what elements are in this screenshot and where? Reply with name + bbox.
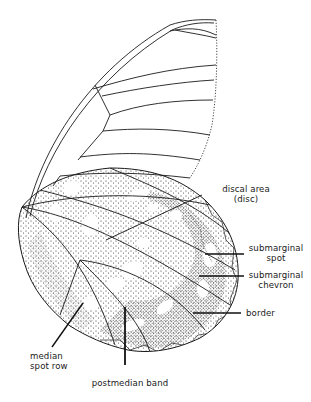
label-postmedian-band-line1: postmedian band (85, 378, 175, 388)
label-median-spot-row-line2: spot row (30, 361, 80, 371)
label-submarginal-chevron-line1: submarginal (242, 270, 310, 280)
label-discal-area: discal area (disc) (203, 184, 289, 204)
label-border: border (246, 308, 286, 318)
label-border-line1: border (246, 308, 286, 318)
label-postmedian-band: postmedian band (85, 378, 175, 388)
label-discal-area-line1: discal area (203, 184, 289, 194)
label-median-spot-row-line1: median (30, 351, 80, 361)
label-submarginal-spot-line1: submarginal (242, 243, 310, 253)
label-submarginal-chevron: submarginal chevron (242, 270, 310, 290)
label-submarginal-spot-line2: spot (242, 253, 310, 263)
label-submarginal-chevron-line2: chevron (242, 280, 310, 290)
label-discal-area-line2: (disc) (203, 194, 289, 204)
label-submarginal-spot: submarginal spot (242, 243, 310, 263)
label-median-spot-row: median spot row (30, 351, 80, 371)
